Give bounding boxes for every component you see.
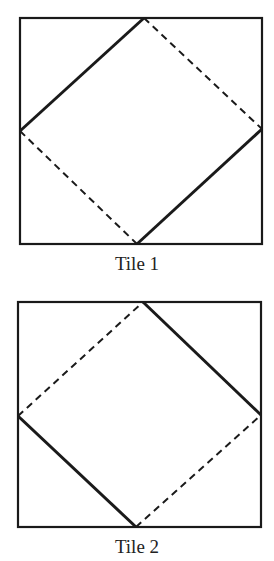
tile-2 (18, 302, 261, 527)
tile-1 (20, 18, 262, 244)
tile-1-dashed-edge-top-right (144, 18, 262, 129)
tile-2-border (18, 302, 261, 527)
tile-2-caption: Tile 2 (0, 536, 274, 558)
tile-2-solid-edge-bottom-left (18, 416, 136, 527)
tile-2-solid-edge-top-right (143, 302, 261, 415)
tile-1-border (20, 18, 262, 244)
tiles-diagram (0, 0, 274, 561)
tile-1-solid-edge-top-left (20, 18, 144, 131)
tile-1-caption: Tile 1 (0, 253, 274, 275)
tile-2-dashed-edge-top-left (18, 302, 143, 416)
tile-1-dashed-edge-bottom-left (20, 131, 137, 244)
tile-1-solid-edge-bottom-right (137, 129, 262, 244)
tile-2-dashed-edge-bottom-right (136, 415, 261, 527)
